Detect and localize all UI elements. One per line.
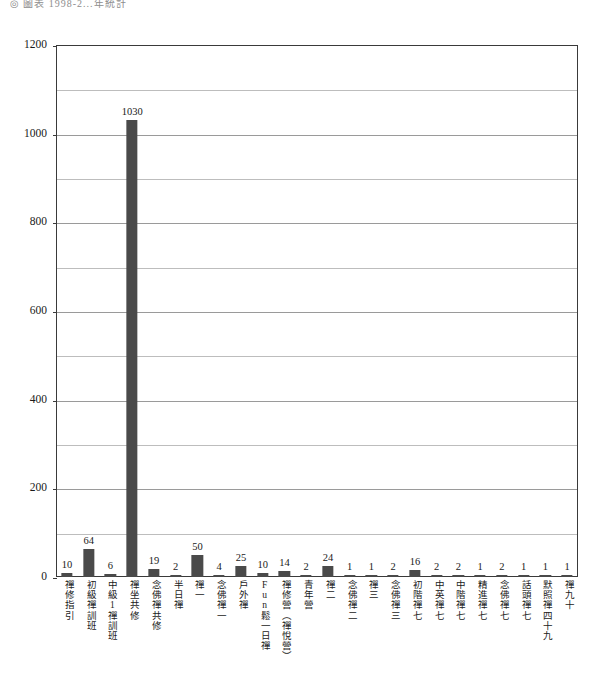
bar[interactable] [83,549,94,577]
bar[interactable] [518,575,529,577]
x-category-label: 禪修營（禪悅營） [277,580,291,662]
x-category-label: 禪坐共修 [125,580,139,621]
x-category-label: 禪一 [190,580,204,600]
y-tick-label: 1200 [0,39,52,51]
bar-value-label: 2 [304,561,309,572]
y-tick-mark [53,578,57,579]
bar-slot[interactable]: 1 [339,45,361,577]
bar-value-label: 19 [149,555,160,566]
bar[interactable] [409,570,420,577]
x-category-label: 青年營 [299,580,313,611]
bar[interactable] [300,575,311,577]
bar-slot[interactable]: 16 [404,45,426,577]
bar-value-label: 1 [369,561,374,572]
x-category-label: 默照禪四十九 [538,580,552,641]
x-axis: 禪修指引初級禪訓班中級1禪訓班禪坐共修念佛禪共修半日禪禪一念佛禪一戶外禪Fun鬆… [56,580,578,684]
x-category-label: 念佛禪三 [386,580,400,621]
bar-value-label: 50 [192,541,203,552]
x-category-label: 中英禪七 [430,580,444,621]
x-category-label: 話頭禪七 [517,580,531,621]
x-category-label: 禪修指引 [60,580,74,621]
bar-value-label: 24 [323,552,334,563]
bar-slot[interactable]: 24 [317,45,339,577]
x-category-label: 半日禪 [169,580,183,611]
bar-slot[interactable]: 19 [143,45,165,577]
bar-value-label: 1 [521,561,526,572]
bar[interactable] [474,575,485,577]
bar-slot[interactable]: 2 [491,45,513,577]
bar-value-label: 2 [456,561,461,572]
bar-slot[interactable]: 50 [187,45,209,577]
bar-slot[interactable]: 1 [469,45,491,577]
bar-slot[interactable]: 1030 [121,45,143,577]
bar[interactable] [257,573,268,577]
bar-value-label: 2 [499,561,504,572]
bar-value-label: 1 [543,561,548,572]
bar-value-label: 10 [257,559,268,570]
x-category-label: 中級1禪訓班 [103,580,117,641]
x-category-label: 念佛禪七 [495,580,509,621]
bar[interactable] [322,566,333,577]
bar[interactable] [192,555,203,577]
bar[interactable] [61,573,72,577]
y-tick-label: 400 [0,394,52,406]
bar[interactable] [148,569,159,577]
bar-slot[interactable]: 25 [230,45,252,577]
bar-value-label: 1 [478,561,483,572]
bar[interactable] [170,575,181,577]
bar-slot[interactable]: 1 [361,45,383,577]
bar-slot[interactable]: 2 [448,45,470,577]
bar[interactable] [213,575,224,577]
x-category-label: 戶外禪 [234,580,248,611]
bar[interactable] [540,575,551,577]
bar-value-label: 2 [434,561,439,572]
bar-value-label: 14 [279,557,290,568]
y-tick-label: 800 [0,216,52,228]
y-tick-label: 200 [0,482,52,494]
x-category-label: Fun鬆一日禪 [256,580,270,651]
bar-slot[interactable]: 4 [208,45,230,577]
bar-slot[interactable]: 10 [252,45,274,577]
bar[interactable] [496,575,507,577]
x-category-label: 禪二 [321,580,335,600]
bar[interactable] [235,566,246,577]
x-category-label: 念佛禪二 [343,580,357,621]
bar-slot[interactable]: 1 [513,45,535,577]
bar-slot[interactable]: 2 [382,45,404,577]
bar-value-label: 1 [347,561,352,572]
bar-slot[interactable]: 1 [556,45,578,577]
x-category-label: 念佛禪共修 [147,580,161,631]
bar-value-label: 2 [173,561,178,572]
y-tick-label: 1000 [0,128,52,140]
bar[interactable] [344,575,355,577]
bar-value-label: 4 [217,561,222,572]
bar-slot[interactable]: 2 [165,45,187,577]
bar[interactable] [387,575,398,577]
x-category-label: 念佛禪一 [212,580,226,621]
bar-value-label: 6 [108,560,113,571]
bar[interactable] [453,575,464,577]
bar-slot[interactable]: 14 [274,45,296,577]
bar[interactable] [561,575,572,577]
y-tick-label: 0 [0,571,52,583]
bar-slot[interactable]: 64 [78,45,100,577]
x-category-label: 中階禪七 [451,580,465,621]
bar[interactable] [105,574,116,577]
bar-slot[interactable]: 2 [426,45,448,577]
bar-value-label: 1030 [122,106,143,117]
bar[interactable] [126,120,137,577]
x-category-label: 禪三 [364,580,378,600]
bar[interactable] [366,575,377,577]
bar[interactable] [431,575,442,577]
bar[interactable] [279,571,290,577]
bar-slot[interactable]: 6 [100,45,122,577]
bars-layer: 106461030192504251014224112162212111 [56,45,578,577]
x-category-label: 禪九十 [560,580,574,611]
y-axis: 020040060080010001200 [0,45,52,577]
bar-value-label: 10 [62,559,73,570]
bar-slot[interactable]: 10 [56,45,78,577]
x-category-label: 精進禪七 [473,580,487,621]
bar-slot[interactable]: 2 [295,45,317,577]
bar-slot[interactable]: 1 [535,45,557,577]
x-category-label: 初階禪七 [408,580,422,621]
